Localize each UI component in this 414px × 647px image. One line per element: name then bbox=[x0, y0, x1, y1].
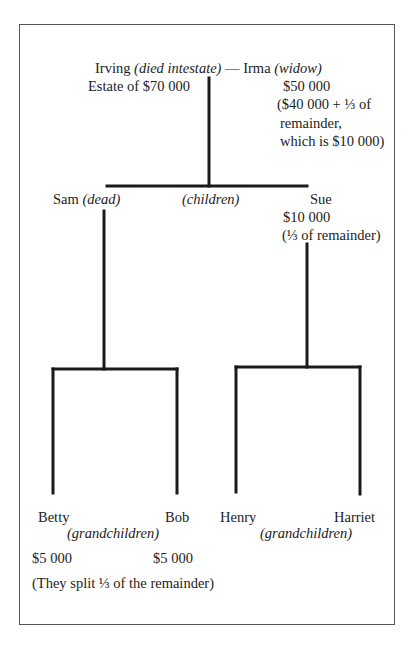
footnote: (They split ⅓ of the remainder) bbox=[32, 574, 214, 592]
sam-name: Sam bbox=[53, 191, 79, 207]
betty-share: $5 000 bbox=[32, 549, 72, 567]
grandchildren-label-right: (grandchildren) bbox=[260, 524, 352, 542]
betty-name: Betty bbox=[38, 508, 69, 526]
sam-note: (dead) bbox=[82, 191, 120, 207]
irving-name: Irving bbox=[95, 60, 130, 76]
sue-name: Sue bbox=[310, 190, 332, 208]
irma-share-explanation-3: which is $10 000) bbox=[280, 132, 384, 150]
grandchildren-label-left: (grandchildren) bbox=[67, 524, 159, 542]
children-label: (children) bbox=[182, 190, 239, 208]
bob-share: $5 000 bbox=[153, 549, 193, 567]
irma-note: (widow) bbox=[274, 60, 322, 76]
dash: — bbox=[225, 60, 240, 76]
henry-name: Henry bbox=[220, 508, 256, 526]
sue-share-explanation: (⅓ of remainder) bbox=[282, 226, 381, 244]
sam-label: Sam (dead) bbox=[53, 190, 120, 208]
irma-share-explanation-2: remainder, bbox=[280, 114, 342, 132]
irma-name: Irma bbox=[243, 60, 270, 76]
root-label: Irving (died intestate) — Irma (widow) bbox=[95, 59, 322, 77]
irving-note: (died intestate) bbox=[134, 60, 221, 76]
irma-share-explanation-1: ($40 000 + ⅓ of bbox=[277, 95, 371, 113]
bob-name: Bob bbox=[165, 508, 189, 526]
sue-share: $10 000 bbox=[283, 208, 330, 226]
irma-share: $50 000 bbox=[283, 77, 330, 95]
estate-label: Estate of $70 000 bbox=[88, 77, 190, 95]
